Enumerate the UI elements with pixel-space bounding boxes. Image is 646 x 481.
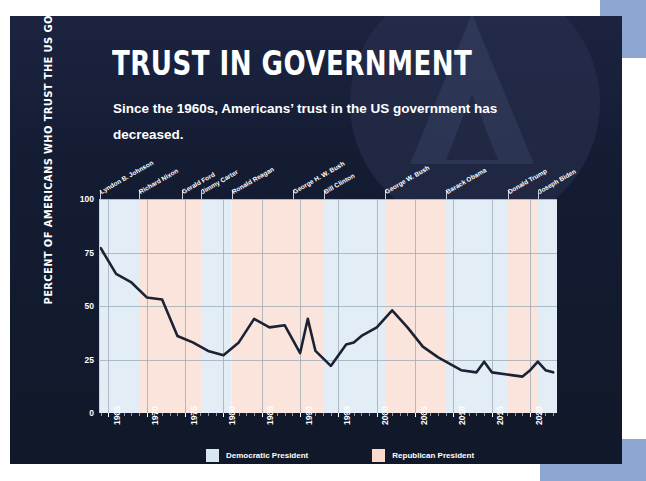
x-axis-minor-tick [346, 413, 347, 416]
x-axis-minor-tick [193, 413, 194, 416]
x-axis-tick-mark [377, 413, 378, 417]
x-axis-minor-tick [239, 413, 240, 416]
x-axis-minor-tick [522, 413, 523, 416]
y-axis-tick-label: 100 [80, 194, 94, 204]
x-axis-minor-tick [553, 413, 554, 416]
x-axis-minor-tick [499, 413, 500, 416]
x-axis-minor-tick [400, 413, 401, 416]
infographic-card: TRUST IN GOVERNMENT Since the 1960s, Ame… [10, 16, 622, 464]
x-axis-minor-tick [323, 413, 324, 416]
x-axis-minor-tick [515, 413, 516, 416]
x-axis-minor-tick [545, 413, 546, 416]
x-axis-minor-tick [208, 413, 209, 416]
y-axis-label: PERCENT OF AMERICANS WHO TRUST THE US GO… [42, 105, 55, 305]
legend-label-democratic: Democratic President [226, 451, 308, 460]
x-axis-tick-mark [108, 413, 109, 417]
x-axis-minor-tick [538, 413, 539, 416]
legend: Democratic President Republican Presiden… [206, 449, 474, 462]
x-axis-minor-tick [407, 413, 408, 416]
x-axis-tick-mark [147, 413, 148, 417]
poster-root: TRUST IN GOVERNMENT Since the 1960s, Ame… [0, 0, 646, 481]
x-axis-minor-tick [170, 413, 171, 416]
trust-line-series [100, 199, 557, 413]
x-axis-minor-tick [461, 413, 462, 416]
x-axis-tick-mark [185, 413, 186, 417]
x-axis-minor-tick [124, 413, 125, 416]
y-axis-tick-label: 0 [89, 408, 94, 418]
president-label: Barack Obama [445, 166, 488, 195]
legend-item-democratic: Democratic President [206, 449, 308, 462]
x-axis-minor-tick [254, 413, 255, 416]
x-axis-minor-tick [507, 413, 508, 416]
x-axis-tick-mark [415, 413, 416, 417]
x-axis-minor-tick [446, 413, 447, 416]
legend-swatch-democratic [206, 449, 219, 462]
x-axis-minor-tick [438, 413, 439, 416]
x-axis-minor-tick [154, 413, 155, 416]
x-axis-minor-tick [315, 413, 316, 416]
president-label: George W. Bush [383, 164, 430, 195]
x-axis-minor-tick [131, 413, 132, 416]
legend-label-republican: Republican President [392, 451, 474, 460]
x-axis-minor-tick [177, 413, 178, 416]
x-axis-minor-tick [162, 413, 163, 416]
x-axis-minor-tick [292, 413, 293, 416]
president-label: Richard Nixon [138, 167, 180, 195]
y-axis-tick-label: 50 [85, 301, 94, 311]
x-axis-minor-tick [216, 413, 217, 416]
y-axis-tick-label: 75 [85, 248, 94, 258]
x-axis-minor-tick [139, 413, 140, 416]
x-axis-minor-tick [277, 413, 278, 416]
x-axis-minor-tick [246, 413, 247, 416]
x-axis-tick-mark [492, 413, 493, 417]
x-axis-minor-tick [308, 413, 309, 416]
plot-area: Lyndon B. JohnsonRichard NixonGerald For… [99, 199, 557, 413]
legend-item-republican: Republican President [372, 449, 474, 462]
y-axis-tick-label: 25 [85, 355, 94, 365]
x-axis-minor-tick [269, 413, 270, 416]
x-axis-minor-tick [384, 413, 385, 416]
x-axis-tick-mark [338, 413, 339, 417]
legend-swatch-republican [372, 449, 385, 462]
x-axis-minor-tick [331, 413, 332, 416]
x-axis-minor-tick [200, 413, 201, 416]
x-axis-tick-mark [300, 413, 301, 417]
x-axis-minor-tick [484, 413, 485, 416]
chart: PERCENT OF AMERICANS WHO TRUST THE US GO… [10, 16, 622, 464]
x-axis-minor-tick [476, 413, 477, 416]
x-axis-minor-tick [361, 413, 362, 416]
x-axis-minor-tick [469, 413, 470, 416]
x-axis-minor-tick [231, 413, 232, 416]
x-axis-minor-tick [423, 413, 424, 416]
x-axis-minor-tick [101, 413, 102, 416]
x-axis-minor-tick [285, 413, 286, 416]
x-axis-tick-mark [223, 413, 224, 417]
x-axis-tick-mark [530, 413, 531, 417]
x-axis-minor-tick [430, 413, 431, 416]
x-axis-minor-tick [369, 413, 370, 416]
x-axis-tick-mark [262, 413, 263, 417]
president-label: George H. W. Bush [291, 160, 345, 195]
x-axis-minor-tick [116, 413, 117, 416]
x-axis-minor-tick [354, 413, 355, 416]
x-axis-tick-mark [453, 413, 454, 417]
x-axis-minor-tick [392, 413, 393, 416]
